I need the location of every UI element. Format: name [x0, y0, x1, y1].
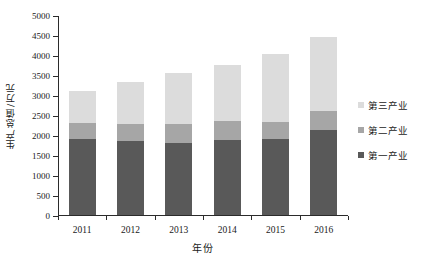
bar-segment[interactable]	[214, 65, 241, 121]
bar-segment[interactable]	[310, 37, 337, 112]
y-axis-tick-mark	[53, 36, 58, 37]
y-axis-tick-label: 1000	[32, 171, 50, 181]
bar-segment[interactable]	[214, 121, 241, 140]
y-axis-tick-mark	[53, 96, 58, 97]
y-axis-tick-mark	[53, 116, 58, 117]
x-axis-tick-label: 2013	[169, 225, 188, 235]
y-axis-title: 生产总值/万元	[2, 0, 20, 232]
legend-swatch-icon	[358, 102, 364, 108]
x-axis-tick-label: 2014	[218, 225, 237, 235]
bar-segment[interactable]	[69, 123, 96, 139]
y-axis-tick-mark	[53, 76, 58, 77]
bar-segment[interactable]	[69, 91, 96, 124]
y-axis-tick-label: 4500	[32, 31, 50, 41]
y-axis-tick-label: 5000	[32, 11, 50, 21]
bar-segment[interactable]	[165, 143, 192, 215]
x-axis-tick-label: 2011	[73, 225, 92, 235]
y-axis-tick-label: 2000	[32, 131, 50, 141]
x-axis-tick-label: 2015	[266, 225, 285, 235]
x-axis-tick-label: 2012	[121, 225, 140, 235]
bar-segment[interactable]	[310, 130, 337, 215]
bar-segment[interactable]	[262, 54, 289, 122]
chart-legend: 第三产业第二产业第一产业	[358, 98, 408, 162]
y-axis-tick-mark	[53, 156, 58, 157]
y-axis-tick-label: 1500	[32, 151, 50, 161]
plot-area: 0500100015002000250030003500400045005000…	[58, 16, 348, 216]
legend-item[interactable]: 第三产业	[358, 98, 408, 112]
bar-segment[interactable]	[117, 82, 144, 124]
bar-segment[interactable]	[117, 124, 144, 141]
bar-segment[interactable]	[165, 124, 192, 143]
y-axis-tick-mark	[53, 136, 58, 137]
x-axis-tick-mark	[300, 216, 301, 220]
y-axis-tick-label: 4000	[32, 51, 50, 61]
stacked-bar-chart: 生产总值/万元 05001000150020002500300035004000…	[0, 0, 430, 265]
x-axis-tick-mark	[58, 216, 59, 220]
x-axis-tick-label: 2016	[314, 225, 333, 235]
bar-segment[interactable]	[262, 122, 289, 139]
y-axis-tick-mark	[53, 176, 58, 177]
legend-label: 第一产业	[368, 148, 408, 162]
legend-label: 第二产业	[368, 123, 408, 137]
bar-segment[interactable]	[214, 140, 241, 215]
legend-item[interactable]: 第一产业	[358, 148, 408, 162]
x-axis-tick-mark	[348, 216, 349, 220]
bar-stack[interactable]	[262, 54, 289, 215]
bar-stack[interactable]	[214, 65, 241, 215]
legend-label: 第三产业	[368, 98, 408, 112]
y-axis-tick-label: 3500	[32, 71, 50, 81]
bar-segment[interactable]	[262, 139, 289, 215]
x-axis-tick-mark	[203, 216, 204, 220]
y-axis-tick-mark	[53, 196, 58, 197]
y-axis-tick-label: 500	[37, 191, 51, 201]
bar-stack[interactable]	[117, 82, 144, 215]
y-axis-tick-label: 0	[46, 211, 51, 221]
legend-item[interactable]: 第二产业	[358, 123, 408, 137]
y-axis-tick-label: 2500	[32, 111, 50, 121]
bar-segment[interactable]	[69, 139, 96, 215]
x-axis-tick-mark	[155, 216, 156, 220]
legend-swatch-icon	[358, 127, 364, 133]
legend-swatch-icon	[358, 152, 364, 158]
y-axis-tick-mark	[53, 16, 58, 17]
bar-segment[interactable]	[310, 111, 337, 130]
bar-stack[interactable]	[69, 91, 96, 215]
bar-stack[interactable]	[310, 37, 337, 215]
x-axis-title: 年份	[58, 240, 348, 255]
y-axis-tick-label: 3000	[32, 91, 50, 101]
y-axis-line	[58, 16, 59, 216]
y-axis-tick-mark	[53, 56, 58, 57]
bar-segment[interactable]	[117, 141, 144, 215]
x-axis-tick-mark	[251, 216, 252, 220]
x-axis-tick-mark	[106, 216, 107, 220]
bar-stack[interactable]	[165, 73, 192, 215]
bar-segment[interactable]	[165, 73, 192, 124]
